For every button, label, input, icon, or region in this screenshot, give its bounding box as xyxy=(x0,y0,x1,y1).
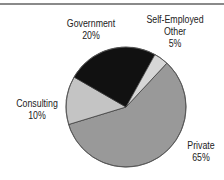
label-self-employed-pct: 5% xyxy=(141,38,210,50)
label-government-pct: 20% xyxy=(62,30,120,42)
label-self-employed: Self-Employed Other 5% xyxy=(141,14,210,50)
label-consulting: Consulting 10% xyxy=(10,98,65,122)
label-self-employed-name: Self-Employed xyxy=(141,14,210,26)
label-self-employed-other: Other xyxy=(141,26,210,38)
label-consulting-name: Consulting xyxy=(10,98,65,110)
label-private-name: Private xyxy=(181,140,221,152)
label-government: Government 20% xyxy=(62,18,120,42)
label-private-pct: 65% xyxy=(181,152,221,164)
label-government-name: Government xyxy=(62,18,120,30)
label-private: Private 65% xyxy=(181,140,221,164)
label-consulting-pct: 10% xyxy=(10,110,65,122)
